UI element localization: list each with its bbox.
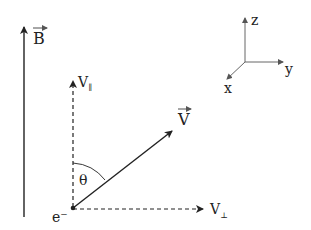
electron-label: e⁻ xyxy=(52,209,68,225)
v-arrow xyxy=(73,131,172,208)
b-field-label: B xyxy=(33,29,45,48)
magnetic-field-vector: B xyxy=(24,27,47,217)
velocity-vector: V xyxy=(73,109,191,208)
y-axis-label: y xyxy=(284,61,293,77)
v-perp-label: V⊥ xyxy=(209,201,228,220)
v-label: V xyxy=(177,110,190,129)
electron-dot xyxy=(71,206,76,211)
x-axis xyxy=(227,62,245,79)
coordinate-axes: z y x xyxy=(224,12,293,96)
diagram-canvas: B V∥ V⊥ V θ e⁻ z y x xyxy=(0,0,311,230)
z-axis-label: z xyxy=(251,12,258,28)
theta-arc xyxy=(73,163,105,180)
v-parallel-label: V∥ xyxy=(77,74,92,92)
theta-label: θ xyxy=(79,172,87,188)
velocity-perpendicular-component: V⊥ xyxy=(73,201,228,220)
x-axis-label: x xyxy=(224,80,232,96)
angle-theta: θ xyxy=(73,163,105,188)
electron: e⁻ xyxy=(52,206,75,225)
